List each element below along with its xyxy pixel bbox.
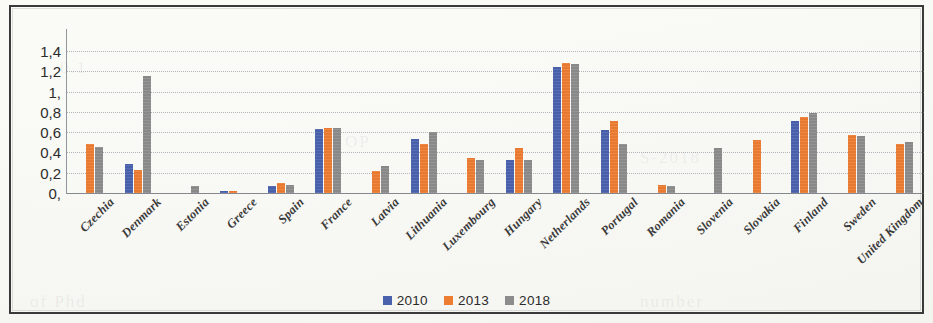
bar-group xyxy=(696,29,723,193)
bar xyxy=(524,160,532,193)
legend-item[interactable]: 2013 xyxy=(444,293,489,308)
bar xyxy=(315,129,323,193)
y-axis-tick-label: 0,4 xyxy=(15,144,61,161)
y-axis-tick-label: 1,2 xyxy=(15,63,61,80)
bar-group xyxy=(887,29,914,193)
x-axis-category-label: Sweden xyxy=(840,195,879,234)
bar xyxy=(324,128,332,193)
bar xyxy=(286,185,294,193)
chart-border: 0,0,20,40,60,81,1,21,4 CzechiaDenmarkEst… xyxy=(9,5,924,314)
y-axis-tick-label: 0, xyxy=(15,185,61,202)
x-axis-category-label: Czechia xyxy=(77,195,118,236)
bar-group xyxy=(601,29,628,193)
x-axis-category-label: Portugal xyxy=(597,195,641,239)
bar xyxy=(125,164,133,193)
legend-label: 2010 xyxy=(397,293,428,308)
x-axis-category-label: Denmark xyxy=(119,195,165,241)
bar-group xyxy=(268,29,295,193)
bar-group xyxy=(791,29,818,193)
y-axis-tick-labels: 0,0,20,40,60,81,1,21,4 xyxy=(11,7,61,207)
bar-group xyxy=(458,29,485,193)
y-axis-tick-label: 0,2 xyxy=(15,164,61,181)
bar xyxy=(381,166,389,193)
plot-area xyxy=(67,29,924,193)
bar-group xyxy=(77,29,104,193)
bar xyxy=(277,183,285,193)
y-axis-tick-label: 1,4 xyxy=(15,43,61,60)
x-axis-category-label: Lithuania xyxy=(402,195,450,243)
bar xyxy=(658,185,666,193)
bar xyxy=(220,191,228,193)
y-axis-tick-label: 0,6 xyxy=(15,124,61,141)
bar xyxy=(896,144,904,193)
x-axis-category-label: Latvia xyxy=(369,195,404,230)
bar-group xyxy=(839,29,866,193)
bar xyxy=(506,160,514,193)
bar xyxy=(905,142,913,193)
bar-group xyxy=(553,29,580,193)
bar xyxy=(229,191,237,193)
bar xyxy=(562,63,570,193)
x-axis-category-label: Spain xyxy=(275,195,307,227)
bar xyxy=(372,171,380,193)
x-axis-category-label: Netherlands xyxy=(537,195,594,252)
y-axis-tick-label: 0,8 xyxy=(15,103,61,120)
bar xyxy=(86,144,94,193)
bar xyxy=(411,139,419,193)
bar xyxy=(467,158,475,194)
bar-group xyxy=(363,29,390,193)
bar xyxy=(714,148,722,193)
legend-label: 2013 xyxy=(458,293,489,308)
bar xyxy=(553,67,561,193)
bar xyxy=(268,186,276,193)
bar xyxy=(95,147,103,193)
gridline xyxy=(67,193,924,194)
bar xyxy=(667,186,675,193)
x-axis-category-label: Slovenia xyxy=(693,195,736,238)
bar-group xyxy=(173,29,200,193)
bar xyxy=(809,113,817,193)
chart-legend: 201020132018 xyxy=(11,293,922,308)
chart-page: 0.1 OP S-2018 of Phd number 0,0,20,40,60… xyxy=(0,0,933,323)
bar xyxy=(429,132,437,193)
legend-color-swatch xyxy=(383,296,392,305)
x-axis-category-label: Finland xyxy=(790,195,831,236)
bar xyxy=(571,64,579,193)
x-axis-category-label: Romania xyxy=(644,195,689,240)
bar xyxy=(476,160,484,193)
bar xyxy=(515,148,523,193)
bar-group xyxy=(125,29,152,193)
legend-item[interactable]: 2018 xyxy=(505,293,550,308)
bar xyxy=(848,135,856,193)
bar xyxy=(420,144,428,193)
bar xyxy=(134,170,142,193)
bar-group xyxy=(506,29,533,193)
bar-group xyxy=(649,29,676,193)
x-axis-category-label: Hungary xyxy=(501,195,546,240)
bar xyxy=(857,136,865,193)
bar-group xyxy=(744,29,771,193)
bar-group xyxy=(315,29,342,193)
x-axis-category-labels: CzechiaDenmarkEstoniaGreeceSpainFranceLa… xyxy=(67,195,924,281)
bar xyxy=(191,186,199,193)
bar xyxy=(619,144,627,193)
x-axis-category-label: Slovakia xyxy=(741,195,784,238)
y-axis-tick-label: 1, xyxy=(15,83,61,100)
bar xyxy=(800,117,808,193)
legend-color-swatch xyxy=(444,296,453,305)
bar-group xyxy=(411,29,438,193)
legend-label: 2018 xyxy=(519,293,550,308)
x-axis-category-label: Greece xyxy=(223,195,260,232)
legend-color-swatch xyxy=(505,296,514,305)
bar xyxy=(791,121,799,193)
bar xyxy=(601,130,609,193)
bar-group xyxy=(220,29,247,193)
bar xyxy=(333,128,341,193)
bar xyxy=(610,121,618,193)
x-axis-category-label: Estonia xyxy=(173,195,213,235)
bar xyxy=(143,76,151,193)
legend-item[interactable]: 2010 xyxy=(383,293,428,308)
bar xyxy=(753,140,761,193)
x-axis-category-label: France xyxy=(317,195,355,233)
